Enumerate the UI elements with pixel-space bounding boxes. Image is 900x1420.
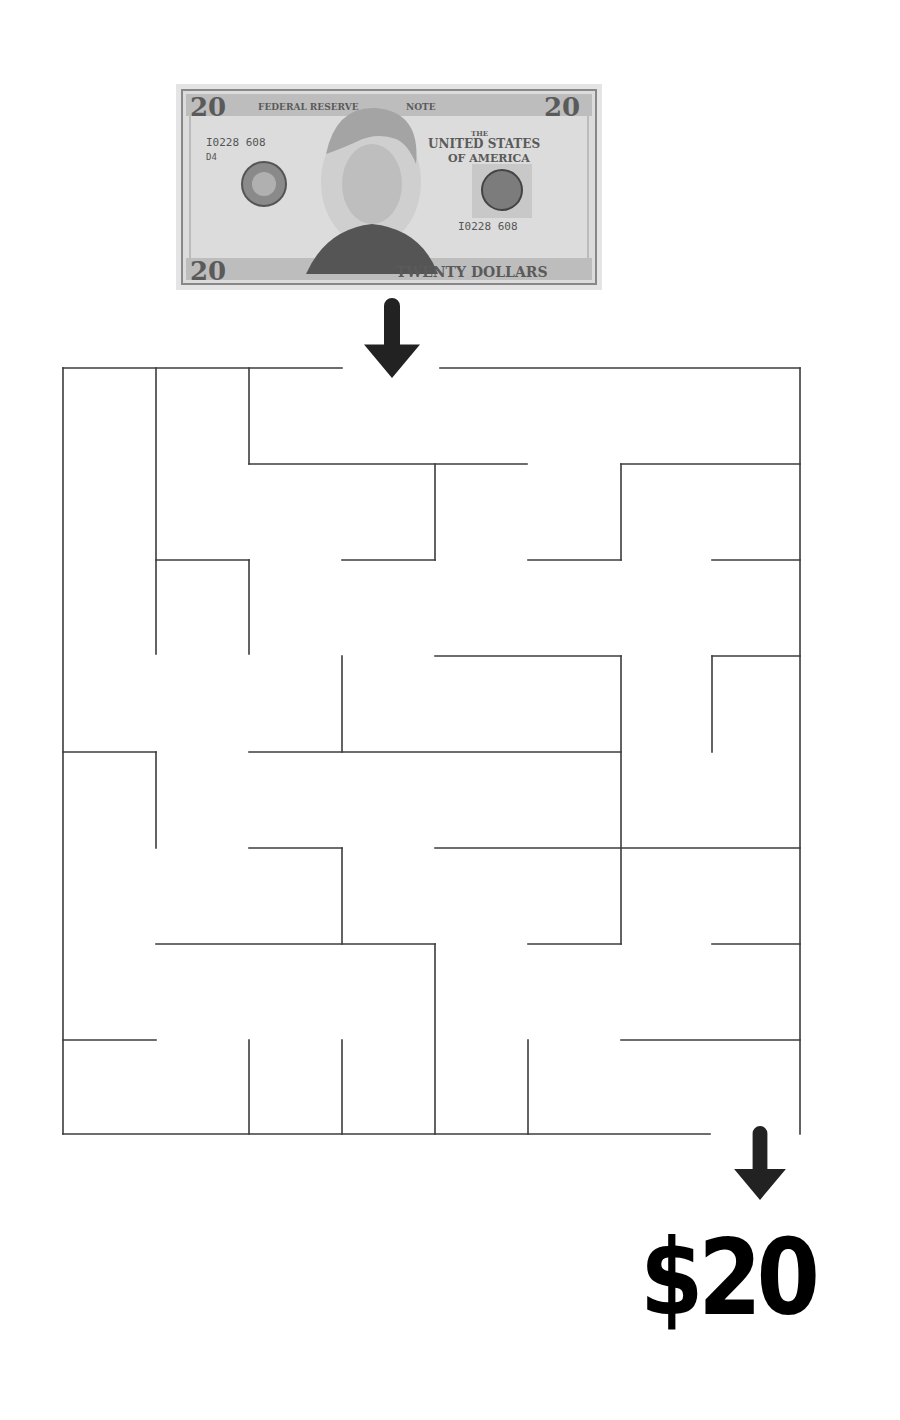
end-arrow-icon <box>734 1126 786 1200</box>
maze-board <box>0 0 900 1420</box>
maze-arrows <box>364 298 786 1200</box>
start-arrow-icon <box>364 298 420 378</box>
maze-walls <box>63 368 800 1134</box>
prize-label: $20 <box>640 1225 815 1331</box>
